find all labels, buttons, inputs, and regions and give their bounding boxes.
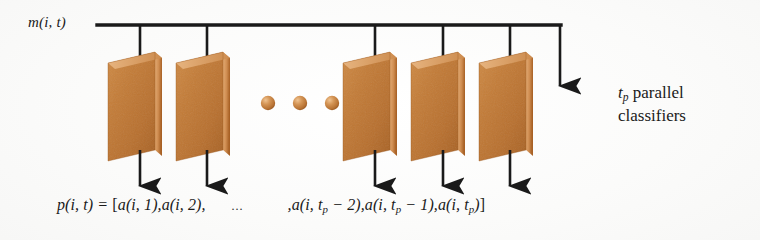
equation-lhs: p(i, t) = (57, 196, 112, 213)
equation-term-n-1-suffix: − 1), (401, 196, 438, 213)
equation-term-n-2-suffix: − 2), (328, 196, 365, 213)
equation-term-n-1-prefix: a(i, t (365, 196, 396, 213)
figure-canvas: m(i, t) tp parallel classifiers p(i, t) … (0, 0, 760, 240)
equation-term-2: a(i, 2), (162, 196, 206, 213)
equation-close-bracket: ] (480, 196, 485, 213)
classifier-n[interactable] (479, 52, 533, 161)
ellipsis-dots (261, 96, 339, 110)
classifier-n-2[interactable] (343, 52, 397, 161)
annotation-line-2: classifiers (618, 105, 686, 127)
equation-ellipsis: ... (232, 199, 244, 213)
classifier-2[interactable] (176, 52, 230, 161)
output-equation: p(i, t) = [a(i, 1),a(i, 2),...,a(i, tp −… (57, 196, 485, 215)
equation-term-1: a(i, 1), (118, 196, 162, 213)
equation-term-n-prefix: a(i, t (438, 196, 469, 213)
input-signal-label: m(i, t) (28, 14, 66, 31)
equation-term-n-2-prefix: a(i, t (292, 196, 323, 213)
classifier-n-1[interactable] (411, 52, 465, 161)
annotation-line-1: tp parallel (618, 82, 686, 105)
annotation-line-1-rest: parallel (629, 83, 684, 102)
parallel-classifiers-annotation: tp parallel classifiers (618, 82, 686, 128)
classifier-1[interactable] (108, 52, 162, 161)
